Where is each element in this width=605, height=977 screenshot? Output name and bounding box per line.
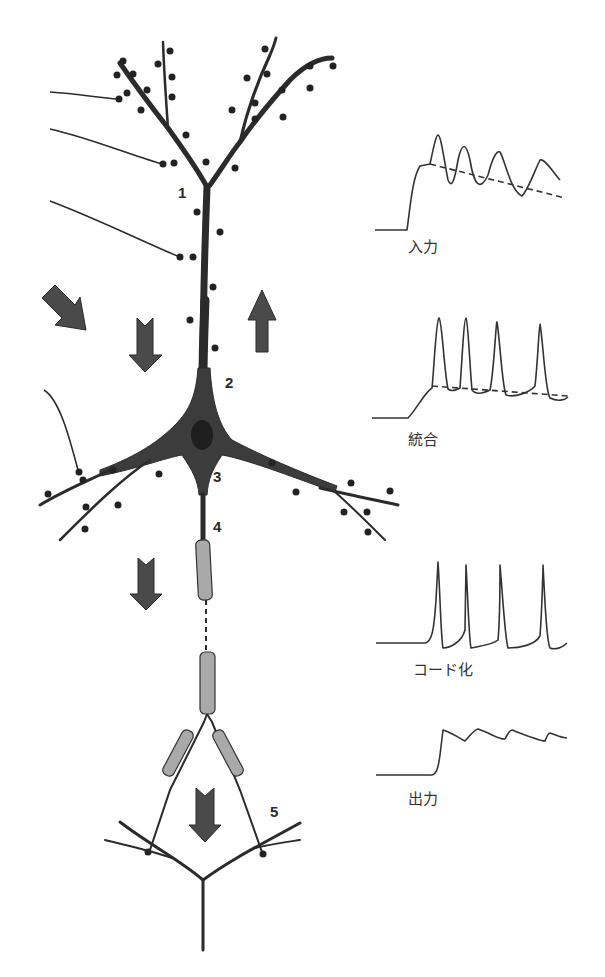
neuron-diagram: 1 2 3 4 5 入力 統合 コード化 出力 xyxy=(0,0,605,977)
myelin-sheath xyxy=(200,652,215,714)
trace-label-input: 入力 xyxy=(408,238,438,256)
input-fibers xyxy=(44,92,184,476)
target-dendrite xyxy=(105,822,300,950)
region-label-5: 5 xyxy=(270,803,278,820)
apical-branch-left xyxy=(120,63,207,187)
trace-output: 出力 xyxy=(376,729,567,808)
region-labels: 1 2 3 4 5 xyxy=(178,184,278,820)
myelin-sheath xyxy=(211,728,245,778)
trace-label-integration: 統合 xyxy=(408,431,438,449)
trace-label-output: 出力 xyxy=(408,790,438,808)
trace-encoding: コード化 xyxy=(376,562,567,679)
trace-integration: 統合 xyxy=(372,318,568,449)
myelin-sheath xyxy=(161,728,195,778)
arrow-diagonal-down-right-icon xyxy=(42,285,86,330)
arrow-down-icon xyxy=(189,788,221,842)
region-label-2: 2 xyxy=(225,374,233,391)
trace-label-encoding: コード化 xyxy=(413,661,473,679)
region-label-4: 4 xyxy=(213,518,222,535)
apical-branch-right xyxy=(210,58,332,185)
arrow-down-icon xyxy=(130,558,162,610)
region-label-1: 1 xyxy=(178,184,186,201)
region-label-3: 3 xyxy=(213,468,221,485)
myelin-sheath xyxy=(195,540,212,601)
dendritic-spines-apical xyxy=(114,46,337,352)
trace-input: 入力 xyxy=(375,135,565,256)
arrow-up-icon xyxy=(248,290,276,352)
nucleus xyxy=(191,420,213,450)
flow-arrows xyxy=(42,285,276,842)
arrow-down-icon xyxy=(129,318,162,372)
